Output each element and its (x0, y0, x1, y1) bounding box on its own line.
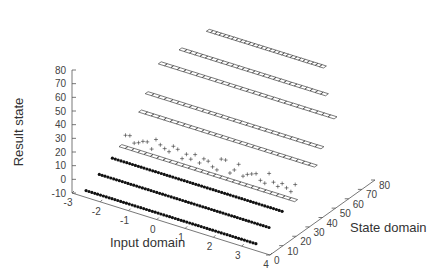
data-point (155, 191, 158, 194)
z-tick-label: 70 (55, 78, 67, 89)
data-point (93, 192, 96, 195)
y-tick-label: 0 (274, 255, 280, 266)
data-point (174, 176, 177, 179)
x-tick (213, 235, 215, 237)
data-point (163, 147, 167, 151)
data-point (115, 178, 118, 181)
data-point (122, 160, 125, 163)
data-point (106, 176, 109, 179)
data-point (161, 193, 164, 196)
data-point (203, 226, 206, 229)
data-point (177, 177, 180, 180)
data-point (111, 157, 114, 160)
data-point (211, 229, 214, 232)
data-point (232, 194, 235, 197)
y-tick-label: 20 (300, 236, 312, 247)
data-point (112, 177, 115, 180)
data-point (136, 205, 139, 208)
y-tick-label: 10 (287, 246, 299, 257)
data-point (241, 174, 245, 178)
data-point (280, 182, 284, 186)
data-point (129, 183, 132, 186)
data-point (154, 137, 158, 141)
data-point (145, 167, 148, 170)
data-point (102, 194, 105, 197)
data-point (223, 192, 226, 195)
data-point (168, 215, 171, 218)
data-point (219, 211, 222, 214)
data-point (213, 209, 216, 212)
data-point (118, 179, 121, 182)
y-tick-label: 80 (379, 180, 391, 191)
data-point (265, 225, 268, 228)
data-point (133, 204, 136, 207)
data-point (267, 226, 270, 229)
data-point (258, 178, 262, 182)
data-point (121, 180, 124, 183)
chart-3d-scatter: 80706050403020100-10-3-2-101234010203040… (0, 0, 443, 272)
data-point (214, 189, 217, 192)
x-tick-label: 2 (207, 241, 213, 252)
data-point (108, 196, 111, 199)
data-point (85, 189, 88, 192)
y-tick-label: 30 (313, 227, 325, 238)
data-point (137, 165, 140, 168)
data-point (158, 143, 162, 147)
data-point (149, 189, 152, 192)
data-point (250, 172, 254, 176)
data-point (117, 158, 120, 161)
data-point (236, 216, 239, 219)
data-point (194, 223, 197, 226)
data-point (138, 185, 141, 188)
data-point (191, 182, 194, 185)
data-point (184, 200, 187, 203)
x-tick-label: -1 (120, 215, 129, 226)
data-point (152, 190, 155, 193)
data-point (98, 173, 101, 176)
data-point (215, 168, 219, 172)
data-point (124, 181, 127, 184)
data-point (180, 157, 184, 161)
data-point (245, 172, 249, 176)
data-point (167, 194, 170, 197)
data-point (125, 202, 128, 205)
data-point (262, 224, 265, 227)
data-point (180, 219, 183, 222)
data-point (180, 178, 183, 181)
x-tick (129, 209, 131, 211)
data-point (252, 201, 255, 204)
data-point (250, 221, 253, 224)
z-axis-title: Result state (11, 98, 26, 167)
data-point (186, 180, 189, 183)
data-point (224, 158, 228, 162)
data-point (196, 203, 199, 206)
data-point (128, 134, 132, 138)
x-tick-label: -3 (64, 197, 73, 208)
y-tick-label: 40 (327, 218, 339, 229)
data-point (211, 165, 215, 169)
data-point (160, 172, 163, 175)
data-point (234, 236, 237, 239)
data-marks (85, 29, 338, 245)
data-point (167, 150, 171, 154)
data-point (145, 140, 149, 144)
data-point (285, 186, 289, 190)
z-tick-label: 10 (55, 160, 67, 171)
data-point (141, 186, 144, 189)
data-point (165, 174, 168, 177)
data-point (198, 204, 201, 207)
data-point (184, 152, 188, 156)
data-point (267, 171, 271, 175)
data-point (281, 210, 284, 213)
data-point (271, 180, 275, 184)
data-point (209, 187, 212, 190)
data-point (90, 191, 93, 194)
data-point (260, 203, 263, 206)
data-point (243, 239, 246, 242)
data-point (145, 208, 148, 211)
data-point (142, 167, 145, 170)
data-point (191, 222, 194, 225)
data-point (228, 234, 231, 237)
data-point (289, 190, 293, 194)
data-point (263, 181, 267, 185)
